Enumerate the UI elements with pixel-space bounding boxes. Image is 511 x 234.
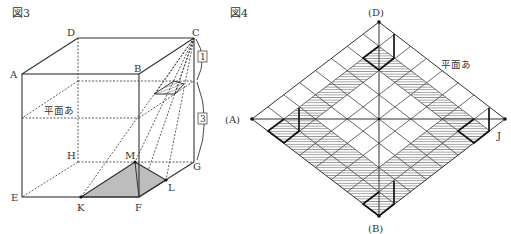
plane-label: 平面あ bbox=[441, 59, 471, 70]
diamond-grid-diagram: 図4 (D) (A) (B) J 平面あ bbox=[220, 0, 511, 234]
label-b: (B) bbox=[368, 223, 383, 234]
label-j: J bbox=[496, 130, 501, 141]
cube-diagram: 図3 1 3 D C bbox=[0, 0, 240, 234]
vertex-d: D bbox=[67, 27, 75, 38]
ratio-label-3: 3 bbox=[200, 114, 206, 124]
vertex-l: L bbox=[168, 182, 175, 193]
vertex-e: E bbox=[11, 192, 18, 203]
figure-title: 図4 bbox=[230, 7, 248, 20]
vertex-f: F bbox=[135, 202, 142, 213]
vertex-m: M bbox=[125, 150, 135, 161]
vertex-h: H bbox=[67, 150, 76, 161]
plane-label: 平面あ bbox=[44, 105, 74, 116]
vertex-k: K bbox=[77, 202, 85, 213]
vertex-b: B bbox=[134, 63, 141, 74]
vertex-g: G bbox=[193, 161, 201, 172]
vertex-a: A bbox=[9, 69, 18, 80]
label-a: (A) bbox=[225, 114, 240, 125]
figure-4: 図4 (D) (A) (B) J 平面あ bbox=[220, 0, 511, 234]
figure-title: 図3 bbox=[12, 7, 30, 20]
figure-3: 図3 1 3 D C bbox=[0, 0, 240, 234]
ratio-label-1: 1 bbox=[200, 52, 206, 62]
label-d: (D) bbox=[368, 7, 384, 18]
vertex-c: C bbox=[192, 27, 200, 38]
